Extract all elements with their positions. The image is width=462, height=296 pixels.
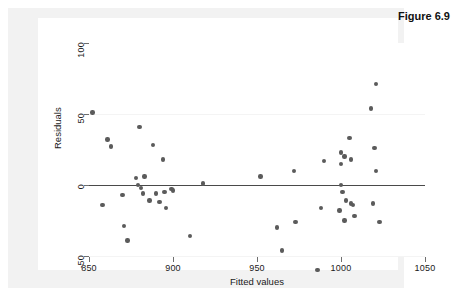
plot-canvas: -50050100 85090095010001050 Residuals Fi… (38, 18, 398, 270)
scatter-point (319, 206, 323, 210)
y-axis-title: Residuals (52, 107, 63, 149)
scatter-point (280, 248, 284, 252)
scatter-point (154, 191, 158, 195)
scatter-point (342, 218, 346, 222)
scatter-point (337, 208, 341, 212)
scatter-point (339, 162, 343, 166)
figure-caption: Figure 6.9 (398, 10, 450, 22)
scatter-point (349, 157, 353, 161)
scatter-point (171, 188, 175, 192)
scatter-point (164, 206, 168, 210)
scatter-point (352, 214, 356, 218)
scatter-point (322, 159, 326, 163)
scatter-point (188, 234, 192, 238)
scatter-point (122, 224, 126, 228)
scatter-point (344, 198, 348, 202)
scatter-point (347, 136, 351, 140)
y-axis-tick-label: 50 (76, 113, 86, 123)
scatter-point (139, 186, 143, 190)
scatter-point (90, 110, 94, 114)
scatter-point (339, 183, 343, 187)
scatter-point (372, 146, 376, 150)
scatter-point (134, 176, 138, 180)
y-axis-tick-label: 100 (76, 42, 86, 58)
scatter-point (120, 193, 124, 197)
gridline (89, 114, 425, 115)
scatter-point (258, 174, 262, 178)
x-axis-title: Fitted values (89, 276, 425, 287)
scatter-point (275, 225, 279, 229)
scatter-point (157, 200, 161, 204)
x-axis-tick (425, 257, 426, 262)
scatter-point (162, 190, 166, 194)
figure-screenshot: -50050100 85090095010001050 Residuals Fi… (0, 0, 462, 296)
plot-region (89, 43, 425, 256)
scatter-point (142, 174, 146, 178)
x-axis-tick (89, 257, 90, 262)
x-axis-tick-label: 1000 (331, 263, 352, 273)
scatter-point (369, 106, 373, 110)
scatter-point (109, 144, 113, 148)
x-axis-tick-label: 950 (249, 263, 265, 273)
scatter-point (161, 157, 165, 161)
scatter-point (351, 203, 355, 207)
x-axis-tick-label: 850 (81, 263, 97, 273)
scatter-point (315, 268, 319, 272)
scatter-point (137, 125, 141, 129)
scatter-point (125, 238, 129, 242)
scatter-point (371, 201, 375, 205)
x-axis-tick-label: 900 (165, 263, 181, 273)
x-axis-tick (341, 257, 342, 262)
x-axis-tick (257, 257, 258, 262)
scatter-point (147, 198, 151, 202)
scatter-point (151, 143, 155, 147)
x-axis-tick (173, 257, 174, 262)
y-axis-tick-label: 0 (76, 184, 86, 189)
scatter-point (342, 154, 346, 158)
scatter-point (100, 203, 104, 207)
figure-card: -50050100 85090095010001050 Residuals Fi… (8, 8, 404, 288)
scatter-point (105, 137, 109, 141)
scatter-point (292, 169, 296, 173)
x-axis-tick-label: 1050 (415, 263, 436, 273)
scatter-point (377, 220, 381, 224)
scatter-point (293, 220, 297, 224)
scatter-point (141, 191, 145, 195)
scatter-point (374, 82, 378, 86)
scatter-point (374, 169, 378, 173)
scatter-point (340, 190, 344, 194)
